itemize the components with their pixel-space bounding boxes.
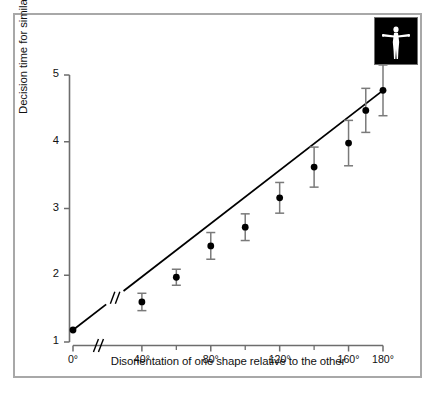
x-tick-label: 80° [193, 353, 229, 365]
y-axis-title: Decision time for similar pairs (sec) [14, 0, 32, 114]
x-tick-label: 120° [262, 353, 298, 365]
x-tick-label: 160° [331, 353, 367, 365]
figure-container: Decision time for similar pairs (sec) Di… [0, 0, 437, 396]
human-figure-icon [375, 18, 417, 64]
x-tick-label: 180° [365, 353, 401, 365]
y-tick-label: 5 [37, 67, 59, 79]
x-tick-label: 40° [124, 353, 160, 365]
y-tick-label: 2 [37, 267, 59, 279]
x-tick-label: 0° [55, 353, 91, 365]
y-tick-label: 1 [37, 334, 59, 346]
figure-border [13, 13, 422, 378]
y-tick-label: 4 [37, 134, 59, 146]
y-tick-label: 3 [37, 201, 59, 213]
human-figure-inset [374, 17, 418, 65]
